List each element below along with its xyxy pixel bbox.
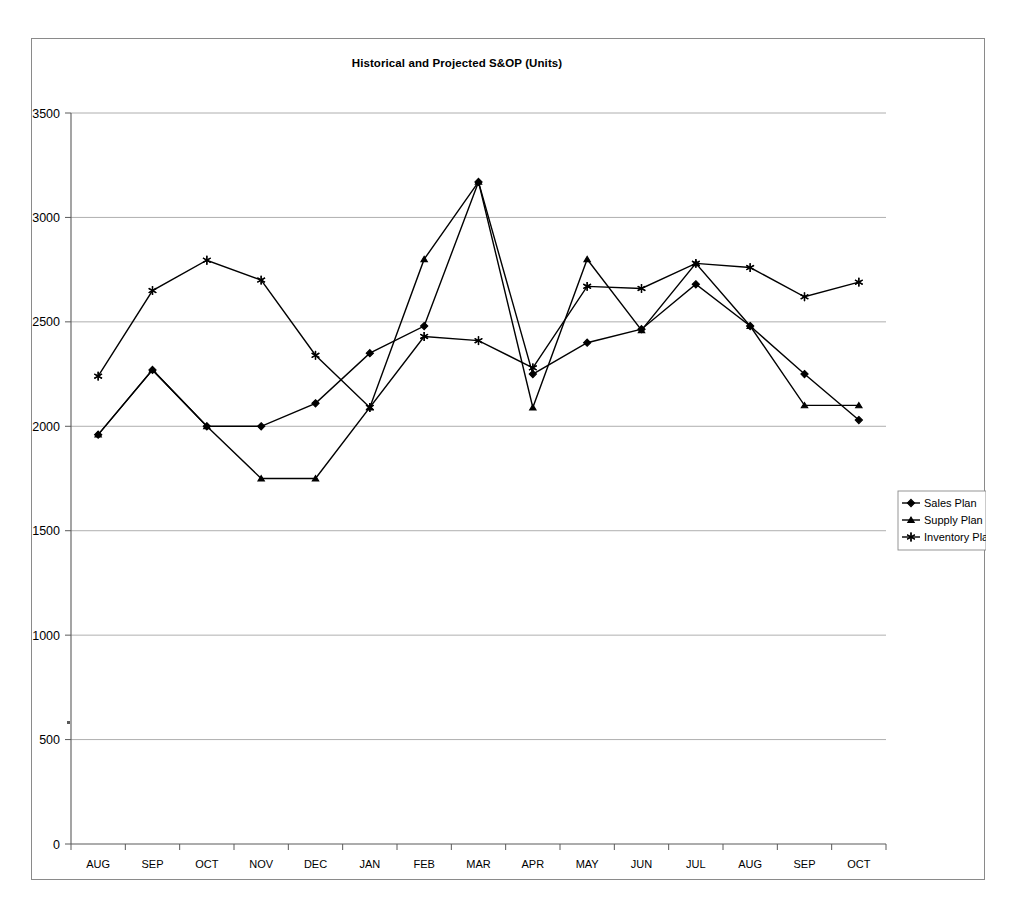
scan-artifact-dot (67, 721, 70, 724)
chart-plot-area: 0500100015002000250030003500 AUGSEPOCTNO… (32, 39, 986, 881)
x-tick-label: NOV (249, 858, 274, 870)
series-inventory-plan (94, 256, 862, 412)
data-point-marker (584, 256, 590, 261)
x-tick-label: JUL (686, 858, 706, 870)
data-point-marker (258, 423, 265, 430)
x-tick-label: OCT (195, 858, 219, 870)
x-tick-label: SEP (793, 858, 815, 870)
data-series-group (94, 178, 862, 481)
data-point-marker (856, 403, 862, 408)
x-tick-label: OCT (847, 858, 871, 870)
data-point-marker (584, 339, 591, 346)
data-point-marker (530, 405, 536, 410)
legend-label: Sales Plan (924, 497, 977, 509)
x-tick-label: MAR (466, 858, 491, 870)
gridlines-group (71, 113, 886, 740)
series-line (98, 260, 859, 407)
legend-label: Supply Plan (924, 514, 983, 526)
chart-frame: Historical and Projected S&OP (Units) 05… (31, 38, 985, 880)
y-tick-label: 3500 (32, 107, 60, 121)
series-supply-plan (95, 179, 862, 481)
series-line (98, 182, 859, 479)
y-tick-label: 0 (53, 838, 60, 852)
y-axis-ticks-group: 0500100015002000250030003500 (32, 107, 71, 852)
x-tick-label: MAY (576, 858, 600, 870)
x-tick-label: AUG (86, 858, 110, 870)
x-tick-label: JAN (359, 858, 380, 870)
x-tick-label: APR (522, 858, 545, 870)
y-tick-label: 2500 (32, 315, 60, 329)
y-tick-label: 1000 (32, 629, 60, 643)
axis-lines-group (71, 113, 886, 844)
data-point-marker (421, 322, 428, 329)
x-tick-label: JUN (631, 858, 652, 870)
data-point-marker (203, 256, 211, 265)
chart-legend: Sales PlanSupply PlanInventory Plan (898, 491, 986, 550)
y-tick-label: 500 (39, 733, 60, 747)
y-tick-label: 2000 (32, 420, 60, 434)
x-tick-label: SEP (141, 858, 163, 870)
x-tick-label: AUG (738, 858, 762, 870)
x-tick-label: FEB (413, 858, 434, 870)
y-tick-label: 3000 (32, 211, 60, 225)
y-tick-label: 1500 (32, 524, 60, 538)
x-axis-ticks-group: AUGSEPOCTNOVDECJANFEBMARAPRMAYJUNJULAUGS… (71, 844, 886, 870)
series-line (98, 182, 859, 435)
legend-label: Inventory Plan (924, 531, 986, 543)
x-tick-label: DEC (304, 858, 327, 870)
